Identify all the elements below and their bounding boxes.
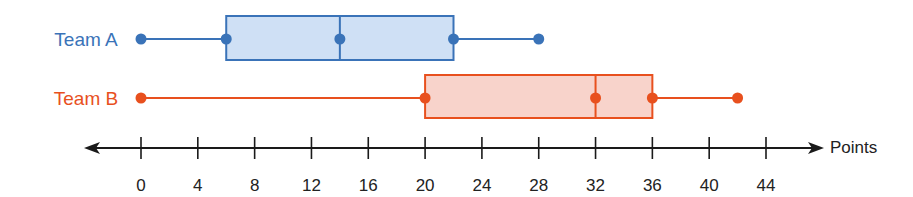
min-point (136, 34, 147, 45)
number-line-axis: 048121620242832364044Points (84, 137, 877, 195)
series-label: Team B (54, 88, 118, 109)
tick-label: 8 (250, 176, 259, 195)
q1-point (420, 93, 431, 104)
q3-point (448, 34, 459, 45)
tick-label: 24 (472, 176, 491, 195)
min-point (136, 93, 147, 104)
axis-title: Points (830, 138, 877, 157)
median-point (334, 34, 345, 45)
max-point (732, 93, 743, 104)
tick-label: 28 (529, 176, 548, 195)
tick-label: 16 (359, 176, 378, 195)
q1-point (221, 34, 232, 45)
tick-label: 44 (757, 176, 776, 195)
boxplot-team-a: Team A (54, 16, 544, 60)
tick-label: 40 (700, 176, 719, 195)
tick-label: 4 (193, 176, 202, 195)
q3-point (647, 93, 658, 104)
tick-label: 12 (302, 176, 321, 195)
series-label: Team A (54, 29, 118, 50)
median-point (590, 93, 601, 104)
tick-label: 20 (416, 176, 435, 195)
tick-label: 36 (643, 176, 662, 195)
interquartile-box (425, 75, 652, 118)
max-point (533, 34, 544, 45)
tick-label: 32 (586, 176, 605, 195)
box-and-whisker-plot: Team ATeam B 048121620242832364044Points (0, 0, 913, 197)
boxplot-team-b: Team B (54, 75, 743, 118)
tick-label: 0 (136, 176, 145, 195)
